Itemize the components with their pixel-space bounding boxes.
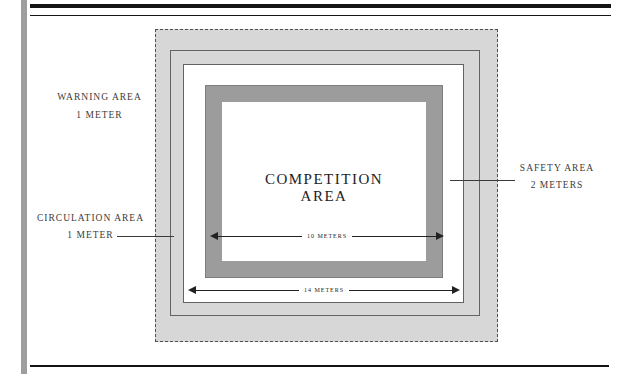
circulation-pointer-line bbox=[117, 236, 174, 237]
competition-label-line2: AREA bbox=[222, 188, 426, 205]
safety-label-line1: SAFETY AREA bbox=[515, 160, 599, 177]
competition-label-line1: COMPETITION bbox=[222, 171, 426, 188]
circulation-label-line1: CIRCULATION AREA bbox=[32, 210, 149, 227]
arrowhead-left-icon bbox=[188, 286, 196, 294]
dimension-line bbox=[218, 236, 302, 237]
safety-area-label: SAFETY AREA 2 METERS bbox=[515, 160, 599, 194]
safety-label-line2: 2 METERS bbox=[515, 177, 599, 194]
arrowhead-right-icon bbox=[436, 232, 444, 240]
dimension-line bbox=[352, 236, 436, 237]
competition-layout-diagram: COMPETITION AREA 10 METERS 14 METERS bbox=[155, 29, 498, 342]
dimension-14m-label: 14 METERS bbox=[299, 285, 349, 295]
circulation-area-label: CIRCULATION AREA 1 METER bbox=[32, 210, 149, 244]
safety-pointer-line bbox=[450, 180, 515, 181]
top-rule bbox=[30, 4, 611, 16]
warning-label-line2: 1 METER bbox=[42, 106, 157, 124]
arrowhead-right-icon bbox=[452, 286, 460, 294]
dimension-arrow-14m: 14 METERS bbox=[188, 285, 460, 295]
arrowhead-left-icon bbox=[210, 232, 218, 240]
dimension-line bbox=[349, 290, 452, 291]
bottom-rule bbox=[30, 365, 609, 367]
left-margin-bar bbox=[21, 0, 27, 374]
warning-label-line1: WARNING AREA bbox=[42, 88, 157, 106]
dimension-arrow-10m: 10 METERS bbox=[210, 231, 444, 241]
warning-area-label: WARNING AREA 1 METER bbox=[42, 88, 157, 124]
dimension-line bbox=[196, 290, 299, 291]
competition-area-label: COMPETITION AREA bbox=[222, 171, 426, 205]
dimension-10m-label: 10 METERS bbox=[302, 231, 352, 241]
